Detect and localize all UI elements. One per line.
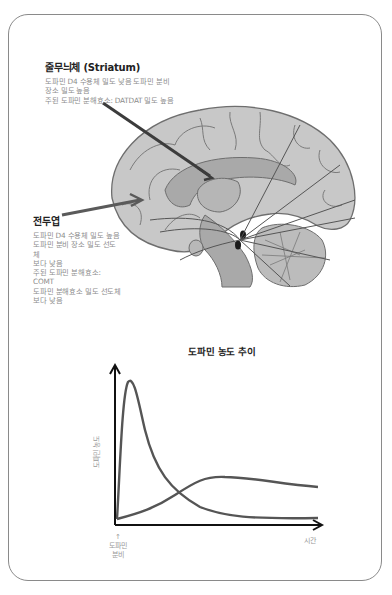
striatum-line: 주된 도파민 분해효소: DATDAT 밀도 높음 [45, 96, 174, 105]
substantia-nigra-dot [235, 241, 241, 250]
frontal-title: 전두엽 [33, 213, 123, 228]
frontal-line: 보다 낮음 [33, 259, 123, 268]
frontal-line: 도파민 분해효소 밀도 선도체 [33, 287, 123, 296]
y-axis-label: 도파민 농도 [91, 436, 101, 468]
striatum-label: 줄무늬체 (Striatum) 도파민 D4 수용체 밀도 낮음 도파민 분비 … [45, 59, 174, 105]
striatum-title: 줄무늬체 (Striatum) [45, 59, 174, 74]
pituitary [189, 240, 203, 256]
release-line-2: 분비 [105, 551, 131, 560]
up-arrow-icon: ↑ [105, 533, 131, 542]
frontal-line: 주된 도파민 분해효소: COMT [33, 268, 123, 287]
striatum-line: 도파민 D4 수용체 밀도 낮음 도파민 분비 [45, 77, 174, 86]
rapid-peak-curve [117, 381, 318, 519]
striatum-line: 장소 밀도 높음 [45, 86, 174, 95]
chart-axes [110, 365, 322, 530]
frontal-line: 보다 낮음 [33, 296, 123, 305]
frontal-lobe-label: 전두엽 도파민 D4 수용체 밀도 높음 도파민 분비 장소 밀도 선도체 보다… [33, 213, 123, 305]
frontal-line: 도파민 D4 수용체 밀도 높음 [33, 231, 123, 240]
x-axis-label: 시간 [304, 535, 316, 545]
release-annotation: ↑ 도파민 분비 [105, 533, 131, 560]
frontal-line: 도파민 분비 장소 밀도 선도체 [33, 240, 123, 259]
chart-title: 도파민 농도 추이 [188, 344, 256, 358]
release-line-1: 도파민 [105, 542, 131, 551]
